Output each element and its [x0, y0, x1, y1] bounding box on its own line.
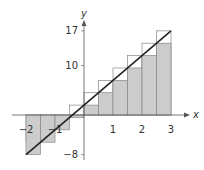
left-endpoint-rectangle — [128, 68, 143, 115]
x-axis-arrow-icon — [184, 113, 190, 118]
left-endpoint-rectangle — [157, 43, 172, 115]
x-tick-label: 1 — [110, 124, 116, 135]
x-axis-label: x — [192, 109, 199, 120]
left-endpoint-rectangle — [84, 105, 99, 115]
riemann-sum-chart: x y −2−11231710−8 — [0, 0, 204, 170]
x-tick-label: 3 — [168, 124, 174, 135]
y-tick-label: 10 — [65, 60, 78, 71]
y-tick-label: −8 — [63, 149, 78, 160]
left-endpoint-rectangle — [113, 80, 128, 115]
left-endpoint-rectangle — [99, 93, 114, 115]
y-tick-label: 17 — [65, 25, 78, 36]
y-axis-arrow-icon — [82, 20, 87, 26]
x-tick-label: 2 — [139, 124, 145, 135]
y-axis-label: y — [80, 8, 88, 19]
left-endpoint-rectangle — [142, 56, 157, 115]
x-tick-label: −2 — [19, 124, 34, 135]
